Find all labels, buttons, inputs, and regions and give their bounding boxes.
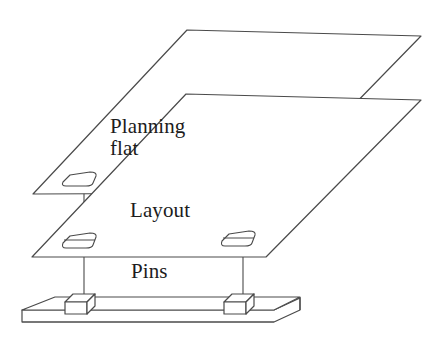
base-plate-top-face [22, 297, 300, 310]
pin-right-front-face [224, 302, 246, 314]
pin-left-front-face [65, 302, 87, 314]
label-planning-flat-line1: Planning [110, 114, 185, 138]
pin-left [65, 294, 95, 314]
label-pins: Pins [131, 261, 168, 283]
label-planning-flat-line2: flat [110, 136, 138, 160]
diagram-canvas: Planningflat Layout Pins [0, 0, 443, 353]
label-layout: Layout [130, 200, 190, 222]
pin-right [224, 294, 254, 314]
base-plate [22, 297, 300, 322]
label-planning-flat: Planningflat [110, 116, 185, 159]
exploded-layer-diagram [0, 0, 443, 353]
